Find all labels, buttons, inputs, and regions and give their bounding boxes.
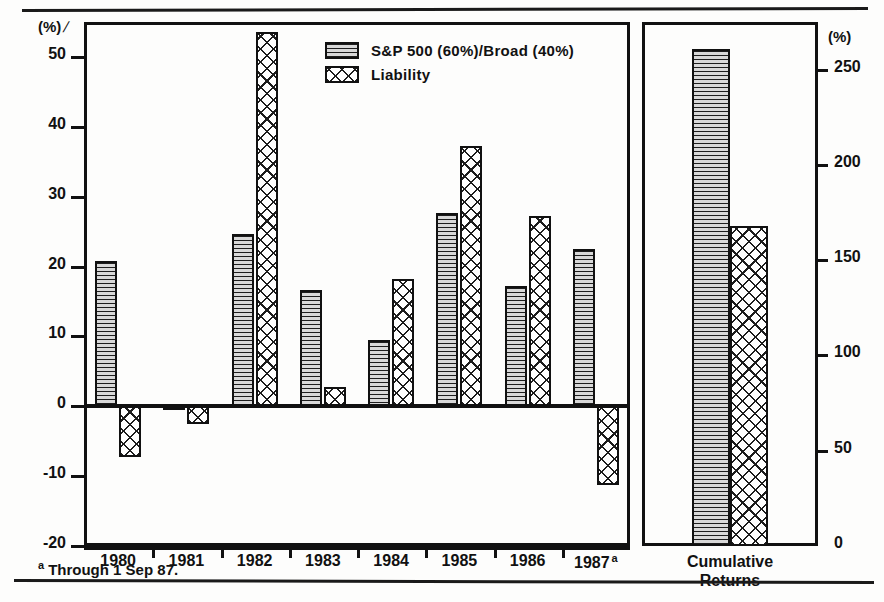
bar-cumulative-sp500 [692,49,730,546]
y-tick-label: -20 [43,534,66,552]
y-tick-left-10: 10 [24,335,84,338]
y-tick-label: 150 [834,248,861,266]
x-axis-tick [562,546,565,558]
y-tick-mark [71,335,84,338]
cumulative-caption-line1: Cumulative [642,552,818,571]
y-tick-mark [71,56,84,59]
x-axis-tick [221,546,224,558]
y-tick-mark [71,196,84,199]
legend-label-liability: Liability [371,66,430,83]
bar-series-group [84,22,630,546]
y-tick-left-40: 40 [24,126,84,129]
bar-sp500-1987 [573,249,595,406]
bar-liability-1983 [324,387,346,406]
x-axis-tick [494,546,497,558]
top-divider-rule [22,7,868,12]
bar-sp500-1980 [95,261,117,406]
x-axis-tick [289,546,292,558]
y-tick-label: 200 [834,153,861,171]
bar-cumulative-liability [730,226,768,546]
legend-label-sp500: S&P 500 (60%)/Broad (40%) [371,42,574,59]
x-axis-label-1985: 1985 [425,552,493,570]
y-tick-left--20: -20 [24,545,84,548]
y-tick-right-50: 50 [815,450,877,453]
y-tick-mark [71,266,84,269]
y-tick-right-150: 150 [815,259,877,262]
y-tick-label: 50 [834,439,852,457]
bar-liability-1985 [460,146,482,406]
chart-figure: (%)/ (%) -20-1001020304050 0501001502002… [0,0,884,602]
bar-liability-1980 [119,406,141,457]
bar-sp500-1985 [436,213,458,407]
y-tick-left-20: 20 [24,266,84,269]
bar-sp500-1986 [505,286,527,406]
x-axis-label-1983: 1983 [289,552,357,570]
legend-item-liability: Liability [325,66,574,83]
x-axis-label-1984: 1984 [357,552,425,570]
right-axis-unit-label: (%) [828,28,851,45]
y-tick-mark [71,126,84,129]
cumulative-caption: Cumulative Returns [642,552,818,590]
y-tick-mark [71,475,84,478]
footnote-text: Through 1 Sep 87. [48,561,178,578]
x-axis-label-footnote-marker: a [612,552,618,564]
bar-liability-1984 [392,279,414,406]
footnote: aThrough 1 Sep 87. [38,559,178,578]
bar-sp500-1983 [300,290,322,407]
footnote-marker: a [38,559,44,571]
x-axis-tick [152,546,155,558]
legend-item-sp500: S&P 500 (60%)/Broad (40%) [325,42,574,59]
cumulative-bar-group [642,22,818,546]
chart-legend: S&P 500 (60%)/Broad (40%) Liability [325,42,574,90]
y-tick-label: 100 [834,343,861,361]
axis-break-slash: / [62,18,71,35]
x-axis-label-1986: 1986 [494,552,562,570]
y-tick-right-0: 0 [815,545,877,548]
y-tick-label: 0 [57,394,66,412]
x-axis-tick [425,546,428,558]
bar-liability-1986 [529,216,551,406]
legend-swatch-sp500-icon [325,42,359,59]
bar-liability-1981 [187,406,209,423]
y-tick-left--10: -10 [24,475,84,478]
y-tick-label: 40 [48,115,66,133]
y-tick-left-50: 50 [24,56,84,59]
left-axis-unit-label: (%)/ [38,18,69,35]
bar-liability-1982 [256,32,278,406]
y-tick-mark [71,405,84,408]
y-tick-label: -10 [43,464,66,482]
y-tick-left-30: 30 [24,196,84,199]
y-tick-label: 50 [48,45,66,63]
y-tick-right-100: 100 [815,354,877,357]
y-tick-label: 0 [834,534,843,552]
bottom-divider-rule [14,579,874,584]
y-tick-mark [71,545,84,548]
y-tick-label: 20 [48,255,66,273]
y-tick-label: 10 [48,324,66,342]
x-axis-label-text: 1987 [574,554,610,571]
x-axis-tick [357,546,360,558]
y-tick-label: 30 [48,185,66,203]
bar-liability-1987 [597,406,619,485]
legend-swatch-liability-icon [325,66,359,83]
bar-sp500-1981 [163,406,185,410]
y-tick-label: 250 [834,58,861,76]
left-axis-unit-text: (%) [38,18,61,35]
x-axis-label-1987: 1987a [562,552,630,572]
y-tick-right-200: 200 [815,164,877,167]
y-tick-left-0: 0 [24,405,84,408]
y-tick-right-250: 250 [815,69,877,72]
bar-sp500-1984 [368,340,390,406]
bar-sp500-1982 [232,234,254,407]
x-axis-label-1982: 1982 [221,552,289,570]
